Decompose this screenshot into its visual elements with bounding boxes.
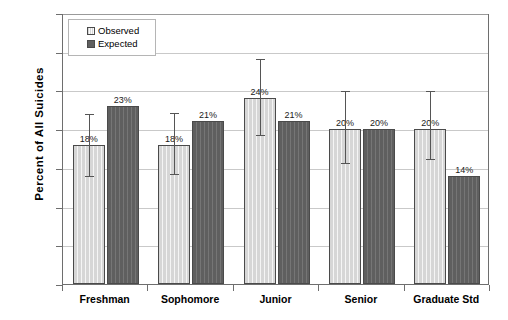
x-tick-mark bbox=[233, 285, 234, 291]
error-bar bbox=[345, 91, 346, 164]
x-axis-label: Graduate Std bbox=[413, 293, 479, 305]
y-axis-title: Percent of All Suicides bbox=[33, 19, 45, 249]
bar-chart: Percent of All Suicides 0%5%10%15%20%25%… bbox=[0, 0, 508, 320]
x-tick-mark bbox=[489, 285, 490, 291]
error-bar-cap bbox=[256, 135, 265, 136]
bar-value-label: 21% bbox=[199, 110, 217, 120]
legend: Observed Expected bbox=[68, 19, 156, 56]
error-bar bbox=[430, 91, 431, 160]
observed-swatch-icon bbox=[87, 27, 95, 35]
error-bar-cap bbox=[341, 91, 350, 92]
x-tick-mark bbox=[318, 285, 319, 291]
x-axis-label: Freshman bbox=[80, 293, 130, 305]
bar-expected bbox=[448, 176, 480, 284]
legend-item: Observed bbox=[75, 24, 149, 37]
error-bar-cap bbox=[85, 114, 94, 115]
legend-item: Expected bbox=[75, 37, 149, 50]
error-bar-cap bbox=[85, 176, 94, 177]
error-bar-cap bbox=[256, 59, 265, 60]
x-tick-mark bbox=[404, 285, 405, 291]
bar-value-label: 23% bbox=[114, 95, 132, 105]
error-bar bbox=[174, 113, 175, 175]
bar-expected bbox=[363, 129, 395, 284]
bar-value-label: 20% bbox=[370, 118, 388, 128]
legend-item-label: Expected bbox=[98, 38, 138, 49]
error-bar-cap bbox=[426, 159, 435, 160]
expected-swatch-icon bbox=[87, 40, 95, 48]
error-bar-cap bbox=[170, 113, 179, 114]
error-bar bbox=[89, 114, 90, 177]
bar-value-label: 21% bbox=[284, 110, 302, 120]
bar-expected bbox=[192, 121, 224, 284]
error-bar-cap bbox=[170, 174, 179, 175]
bar-expected bbox=[278, 121, 310, 284]
bar-expected bbox=[107, 106, 139, 284]
x-axis-label: Junior bbox=[259, 293, 291, 305]
error-bar-cap bbox=[341, 163, 350, 164]
x-tick-mark bbox=[62, 285, 63, 291]
bar-value-label: 14% bbox=[455, 165, 473, 175]
legend-item-label: Observed bbox=[98, 25, 139, 36]
error-bar bbox=[260, 59, 261, 136]
x-tick-mark bbox=[147, 285, 148, 291]
x-axis-label: Senior bbox=[345, 293, 378, 305]
x-axis-label: Sophomore bbox=[161, 293, 219, 305]
error-bar-cap bbox=[426, 91, 435, 92]
